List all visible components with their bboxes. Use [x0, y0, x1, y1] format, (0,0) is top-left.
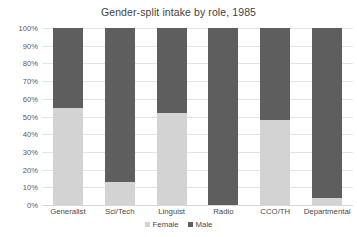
chart-legend: FemaleMale: [0, 220, 357, 229]
gridline: [42, 170, 353, 171]
gridline: [42, 187, 353, 188]
bar-group: [157, 28, 187, 205]
y-axis-tick-label: 40%: [0, 130, 38, 139]
y-axis-tick-label: 70%: [0, 77, 38, 86]
bar-segment-male: [208, 28, 238, 205]
legend-label: Female: [153, 220, 179, 229]
plot-area: [42, 28, 353, 205]
x-axis-tick-label: Linguist: [158, 207, 185, 216]
bar-segment-female: [53, 108, 83, 205]
legend-item-male[interactable]: Male: [188, 220, 213, 229]
bar-segment-male: [260, 28, 290, 120]
bar-segment-male: [312, 28, 342, 198]
legend-item-female[interactable]: Female: [145, 220, 179, 229]
bar-group: [53, 28, 83, 205]
legend-label: Male: [196, 220, 213, 229]
gridline: [42, 46, 353, 47]
bar-group: [312, 28, 342, 205]
x-axis-tick-label: Departmental: [304, 207, 351, 216]
gridline: [42, 28, 353, 29]
gridline: [42, 99, 353, 100]
bar-segment-male: [53, 28, 83, 108]
x-axis: GeneralistSci/TechLinguistRadioCCO/THDep…: [42, 207, 353, 221]
x-axis-tick-label: CCO/TH: [260, 207, 290, 216]
bar-group: [208, 28, 238, 205]
y-axis-tick-label: 30%: [0, 147, 38, 156]
y-axis-tick-label: 90%: [0, 41, 38, 50]
y-axis-tick-label: 20%: [0, 165, 38, 174]
bar-segment-male: [105, 28, 135, 182]
y-axis-tick-label: 60%: [0, 94, 38, 103]
gridline: [42, 117, 353, 118]
x-axis-tick-label: Radio: [213, 207, 233, 216]
gridline: [42, 205, 353, 206]
chart-container: Gender-split intake by role, 1985 0%10%2…: [0, 0, 357, 237]
x-axis-tick-label: Generalist: [50, 207, 86, 216]
gridline: [42, 63, 353, 64]
bar-segment-female: [105, 182, 135, 205]
gridline: [42, 152, 353, 153]
y-axis-tick-label: 0%: [0, 201, 38, 210]
y-axis-tick-label: 10%: [0, 183, 38, 192]
y-axis-tick-label: 80%: [0, 59, 38, 68]
bar-group: [260, 28, 290, 205]
gridline: [42, 134, 353, 135]
y-axis-tick-label: 100%: [0, 24, 38, 33]
bar-segment-female: [260, 120, 290, 205]
y-axis: 0%10%20%30%40%50%60%70%80%90%100%: [0, 28, 38, 205]
bar-group: [105, 28, 135, 205]
bar-segment-male: [157, 28, 187, 113]
legend-swatch-icon: [188, 222, 193, 227]
chart-title: Gender-split intake by role, 1985: [0, 6, 357, 18]
gridline: [42, 81, 353, 82]
legend-swatch-icon: [145, 222, 150, 227]
bar-segment-female: [312, 198, 342, 205]
x-axis-tick-label: Sci/Tech: [105, 207, 134, 216]
y-axis-tick-label: 50%: [0, 112, 38, 121]
bar-segment-female: [157, 113, 187, 205]
